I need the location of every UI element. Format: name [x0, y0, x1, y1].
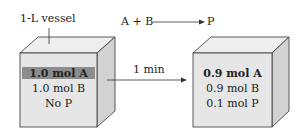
initial-line-b: 1.0 mol B — [20, 81, 97, 96]
reaction-arrow-icon — [153, 20, 205, 25]
final-line-p: 0.1 mol P — [193, 96, 272, 111]
reaction-lhs: A + B — [121, 15, 153, 28]
time-label: 1 min — [133, 63, 165, 76]
final-line-a: 0.9 mol A — [193, 66, 272, 81]
initial-line-a: 1.0 mol A — [20, 66, 97, 81]
final-line-b: 0.9 mol B — [193, 81, 272, 96]
time-arrow-icon — [107, 78, 187, 83]
vessel-label: 1-L vessel — [20, 12, 76, 25]
initial-contents: 1.0 mol A 1.0 mol B No P — [20, 66, 97, 111]
final-contents: 0.9 mol A 0.9 mol B 0.1 mol P — [193, 66, 272, 111]
initial-line-p: No P — [20, 96, 97, 111]
reaction-rhs: P — [207, 15, 214, 28]
